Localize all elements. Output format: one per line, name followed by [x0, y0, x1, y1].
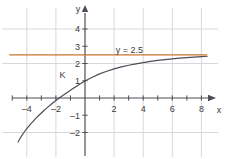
- line-equation-label: y = 2.5: [116, 45, 143, 55]
- curve-k: [18, 56, 207, 142]
- y-tick-label: –2: [70, 128, 80, 138]
- x-axis-name: x: [217, 105, 222, 115]
- x-tick-label: –2: [51, 104, 61, 114]
- series-labels: Ky = 2.5: [59, 45, 143, 80]
- graph-figure: –4–22468 4321–1–2 Ky = 2.5 xy: [0, 0, 226, 159]
- x-tick-label: 4: [141, 104, 146, 114]
- coordinate-plot: –4–22468 4321–1–2 Ky = 2.5 xy: [0, 0, 226, 159]
- y-tick-label: –1: [70, 111, 80, 121]
- y-tick-label: 2: [75, 59, 80, 69]
- x-axis-arrow: [208, 95, 216, 101]
- x-tick-label: 6: [170, 104, 175, 114]
- y-tick-label: 3: [75, 42, 80, 52]
- axis-ticks: [12, 29, 201, 133]
- gridlines: [2, 8, 218, 157]
- y-axis-arrow: [82, 5, 88, 12]
- x-tick-label: –4: [22, 104, 32, 114]
- y-axis-name: y: [76, 4, 81, 14]
- y-tick-labels: 4321–1–2: [70, 24, 80, 137]
- x-tick-label: 8: [199, 104, 204, 114]
- x-tick-label: 2: [112, 104, 117, 114]
- y-tick-label: 4: [75, 24, 80, 34]
- curve-label: K: [59, 70, 65, 80]
